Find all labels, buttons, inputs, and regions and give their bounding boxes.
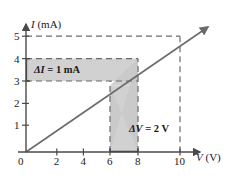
x-tick-label-8: 8 [135,156,141,167]
x-tick-label-10: 10 [174,156,185,167]
x-axis-unit: (V) [205,151,220,163]
delta-i-value: 1 mA [56,64,80,75]
delta-v-symbol: ΔV [129,123,143,134]
y-tick-label-5: 5 [14,31,20,42]
y-axis-title: I (mA) [31,19,61,30]
delta-v-value: 2 V [154,123,169,134]
delta-v-shaded-band-lower [110,86,138,152]
x-tick-label-2: 2 [54,156,60,167]
x-axis-title: V (V) [196,152,221,163]
y-tick-label-4: 4 [14,54,20,65]
delta-i-symbol: ΔI [34,64,45,75]
y-axis-symbol: I [31,18,35,30]
delta-i-annotation: ΔI = 1 mA [34,65,80,76]
y-tick-label-3: 3 [14,76,20,87]
x-tick-label-4: 4 [80,156,86,167]
x-axis-symbol: V [196,151,203,163]
y-tick-label-2: 2 [14,98,20,109]
iv-characteristic-figure: I (mA) V (V) 0 1 2 3 4 5 2 4 6 8 10 ΔI =… [0,0,237,180]
y-axis-unit: (mA) [37,18,61,30]
x-tick-label-6: 6 [107,156,113,167]
delta-i-equals: = [47,64,53,75]
delta-v-annotation: ΔV = 2 V [129,124,169,135]
delta-v-equals: = [145,123,151,134]
origin-label: 0 [18,156,24,167]
y-tick-label-1: 1 [14,120,20,131]
